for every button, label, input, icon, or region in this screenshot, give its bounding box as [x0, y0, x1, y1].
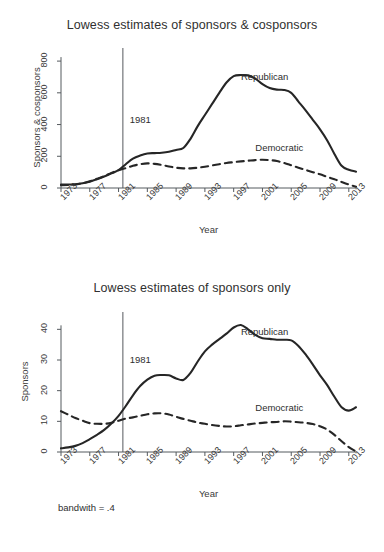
chart-panel-sponsors-only: Lowess estimates of sponsors only Sponso…: [0, 276, 384, 552]
figure-canvas: Lowess estimates of sponsors & cosponsor…: [0, 0, 384, 552]
y-tick-label: 600: [39, 79, 49, 105]
y-tick-label: 0: [39, 174, 49, 200]
chart-panel-sponsors-cosponsors: Lowess estimates of sponsors & cosponsor…: [0, 0, 384, 276]
y-tick-label: 30: [39, 346, 49, 372]
series-label-democratic-top: Democratic: [255, 142, 303, 153]
series-label-republican-top: Republican: [241, 71, 289, 82]
y-tick-label: 200: [39, 142, 49, 168]
y-axis-title-bottom: Sponsors: [19, 361, 30, 401]
bandwidth-footnote: bandwith = .4: [58, 502, 115, 513]
y-tick-label: 10: [39, 407, 49, 433]
vline-annotation-1981-bottom: 1981: [130, 354, 151, 365]
y-tick-label: 0: [39, 438, 49, 464]
y-tick-label: 20: [39, 377, 49, 403]
vline-annotation-1981-top: 1981: [130, 114, 151, 125]
y-tick-label: 40: [39, 315, 49, 341]
x-axis-title-bottom: Year: [61, 488, 356, 499]
series-label-democratic-bottom: Democratic: [255, 402, 303, 413]
series-label-republican-bottom: Republican: [241, 326, 289, 337]
y-tick-label: 800: [39, 47, 49, 73]
y-tick-label: 400: [39, 111, 49, 137]
x-axis-title-top: Year: [61, 224, 356, 235]
